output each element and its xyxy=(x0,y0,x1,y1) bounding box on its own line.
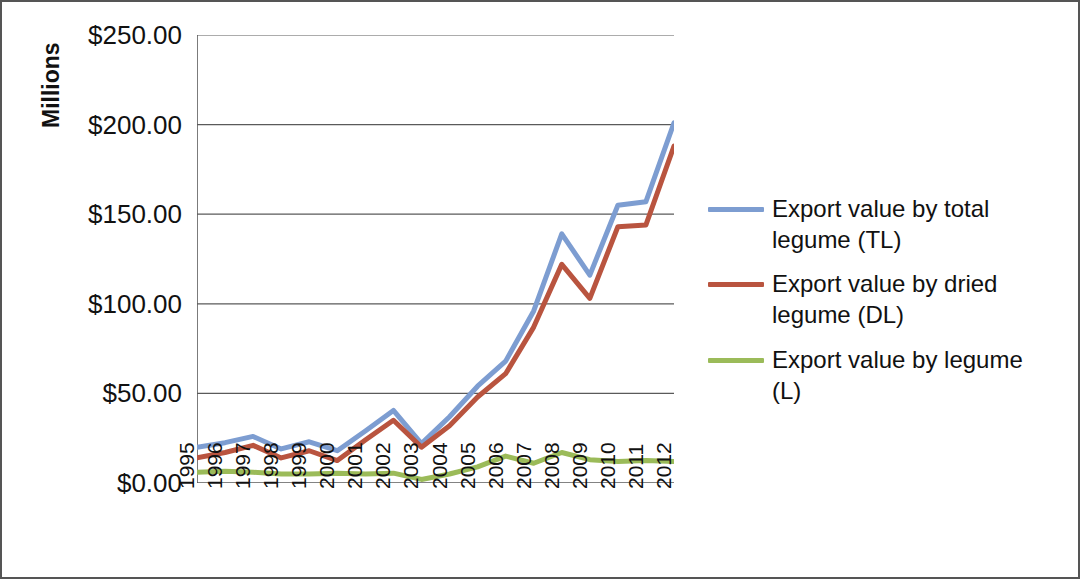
legend-label: Export value by dried legume (DL) xyxy=(772,269,1054,330)
chart-canvas xyxy=(197,35,674,483)
legend-item[interactable]: Export value by legume (L) xyxy=(708,345,1068,406)
x-tick-label: 2001 xyxy=(344,442,365,489)
y-tick-label: $100.00 xyxy=(32,291,182,317)
legend-label: Export value by legume (L) xyxy=(772,345,1054,406)
legend-color-swatch xyxy=(708,282,764,287)
x-tick-label: 2011 xyxy=(624,444,645,489)
x-axis-tick-labels: 1995199619971998199920002001200220032004… xyxy=(197,489,674,569)
x-tick-label: 2004 xyxy=(428,442,449,489)
legend-color-swatch xyxy=(708,207,764,212)
x-tick-label: 2012 xyxy=(653,442,674,489)
x-axis-tick-marks xyxy=(197,35,674,483)
x-tick-label: 2000 xyxy=(316,442,337,489)
x-tick-label: 1997 xyxy=(232,442,253,489)
x-tick-label: 2007 xyxy=(512,442,533,489)
x-tick-label: 2005 xyxy=(456,442,477,489)
y-tick-label: $200.00 xyxy=(32,112,182,138)
data-series-lines xyxy=(197,123,674,480)
x-tick-label: 2008 xyxy=(540,442,561,489)
x-tick-label: 2003 xyxy=(400,442,421,489)
y-axis-tick-labels: $250.00$200.00$150.00$100.00$50.00$0.00 xyxy=(17,2,182,579)
x-tick-label: 2010 xyxy=(596,442,617,489)
x-tick-label: 2009 xyxy=(568,442,589,489)
x-tick-label: 1998 xyxy=(260,442,281,489)
x-tick-label: 1996 xyxy=(204,442,225,489)
legend-item[interactable]: Export value by total legume (TL) xyxy=(708,194,1068,255)
y-tick-label: $250.00 xyxy=(32,22,182,48)
plot-area xyxy=(197,35,674,483)
chart-figure: Millions $250.00$200.00$150.00$100.00$50… xyxy=(0,0,1080,579)
legend-color-swatch xyxy=(708,358,764,363)
x-tick-label: 2006 xyxy=(484,442,505,489)
x-tick-label: 2002 xyxy=(372,442,393,489)
y-tick-label: $0.00 xyxy=(32,470,182,496)
legend-item[interactable]: Export value by dried legume (DL) xyxy=(708,269,1068,330)
legend-label: Export value by total legume (TL) xyxy=(772,194,1054,255)
y-tick-label: $150.00 xyxy=(32,201,182,227)
x-tick-label: 1999 xyxy=(288,442,309,489)
y-tick-label: $50.00 xyxy=(32,380,182,406)
gridlines xyxy=(197,35,674,483)
series-line-1 xyxy=(197,123,674,451)
x-tick-label: 1995 xyxy=(176,442,197,489)
chart-legend: Export value by total legume (TL)Export … xyxy=(708,194,1068,420)
